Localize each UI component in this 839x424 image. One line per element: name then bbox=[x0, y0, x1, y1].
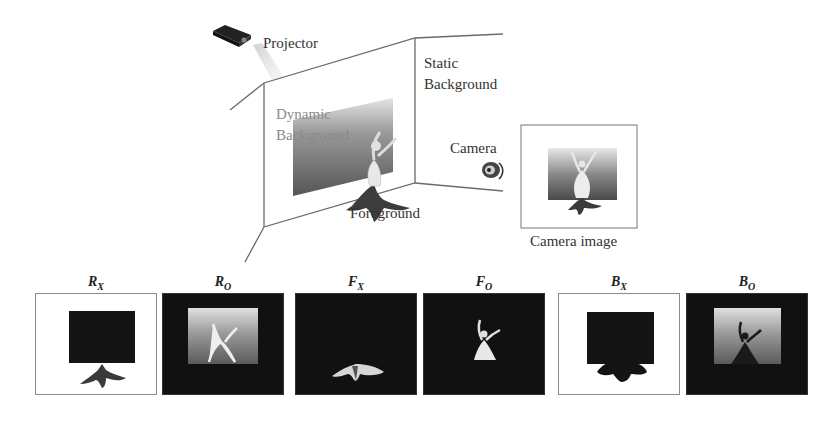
panel-bo bbox=[686, 293, 808, 395]
static-background-label-1: Static bbox=[424, 55, 458, 72]
panel-title-ro: RO bbox=[162, 274, 284, 292]
panel-title-fx: FX bbox=[295, 274, 417, 292]
camera-icon bbox=[481, 159, 505, 181]
projector-label: Projector bbox=[263, 35, 318, 52]
panel-title-bx: BX bbox=[558, 274, 680, 292]
panel-bx bbox=[558, 293, 680, 395]
static-background-label-2: Background bbox=[424, 76, 497, 93]
panel-ro bbox=[162, 293, 284, 395]
panel-title-bo: BO bbox=[686, 274, 808, 292]
projector-icon bbox=[211, 25, 253, 47]
camera-label: Camera bbox=[450, 140, 497, 157]
dynamic-background-label-2: Background bbox=[276, 127, 349, 144]
dynamic-background-label-1: Dynamic bbox=[276, 106, 331, 123]
panel-fx bbox=[295, 293, 417, 395]
panel-title-rx: RX bbox=[35, 274, 157, 292]
camera-image-label: Camera image bbox=[530, 233, 617, 250]
foreground-label: Foreground bbox=[350, 205, 420, 222]
panel-rx bbox=[35, 293, 157, 395]
panel-title-fo: FO bbox=[423, 274, 545, 292]
panel-fo bbox=[423, 293, 545, 395]
